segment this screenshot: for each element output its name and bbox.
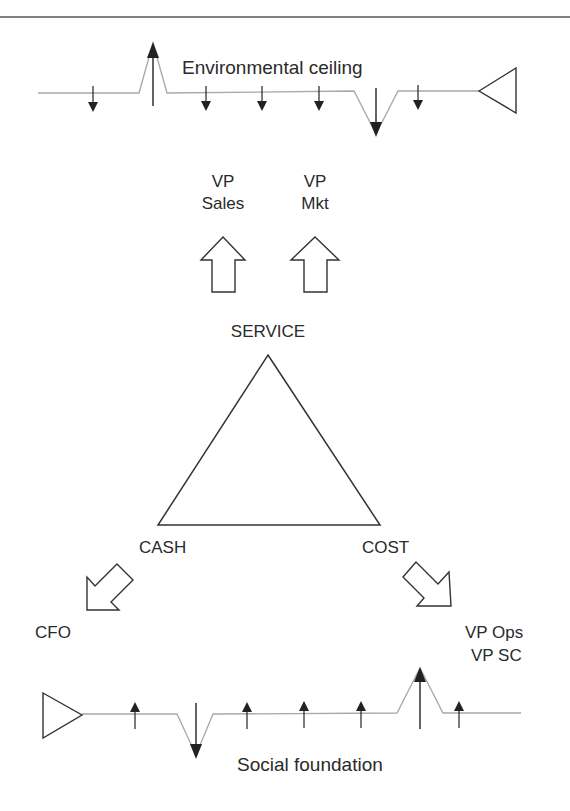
shortfall-down-arrow-icon	[370, 88, 382, 137]
shortfall-down-arrow-icon	[190, 703, 202, 759]
down-arrow-icon	[201, 86, 211, 111]
down-arrow-icon	[314, 86, 324, 111]
cost-label: COST	[362, 538, 409, 557]
overshoot-up-arrow-icon	[147, 42, 159, 106]
foundation-start-triangle	[43, 693, 82, 738]
vp-sc-label: VP SC	[471, 646, 522, 665]
mkt-up-arrow-icon	[291, 237, 339, 292]
social-foundation-label: Social foundation	[237, 754, 383, 775]
up-arrow-icon	[454, 701, 464, 728]
up-arrow-icon	[356, 701, 366, 728]
vp-mkt-label-line1: VP	[304, 172, 327, 191]
ceiling-end-triangle	[479, 68, 516, 113]
cfo-label: CFO	[35, 623, 71, 642]
down-arrow-icon	[88, 86, 98, 112]
down-arrow-icon	[257, 86, 267, 111]
service-cash-cost-triangle	[158, 355, 380, 525]
environmental-ceiling-label: Environmental ceiling	[182, 57, 363, 78]
sales-up-arrow-icon	[201, 237, 245, 292]
service-label: SERVICE	[231, 322, 305, 341]
vp-sales-label-line1: VP	[212, 172, 235, 191]
social-foundation-line	[43, 667, 521, 759]
vp-mkt-label-line2: Mkt	[301, 194, 329, 213]
vp-ops-label: VP Ops	[465, 623, 523, 642]
cash-label: CASH	[139, 538, 186, 557]
down-arrow-icon	[413, 85, 423, 110]
vp-sales-label-line2: Sales	[202, 194, 245, 213]
up-arrow-icon	[130, 702, 140, 729]
up-arrow-icon	[299, 701, 309, 728]
up-arrow-icon	[242, 702, 252, 729]
ops-down-right-arrow-icon	[403, 562, 451, 606]
doughnut-triangle-diagram: Environmental ceiling VP Sales VP Mkt SE…	[0, 0, 570, 811]
cfo-down-left-arrow-icon	[87, 564, 133, 610]
